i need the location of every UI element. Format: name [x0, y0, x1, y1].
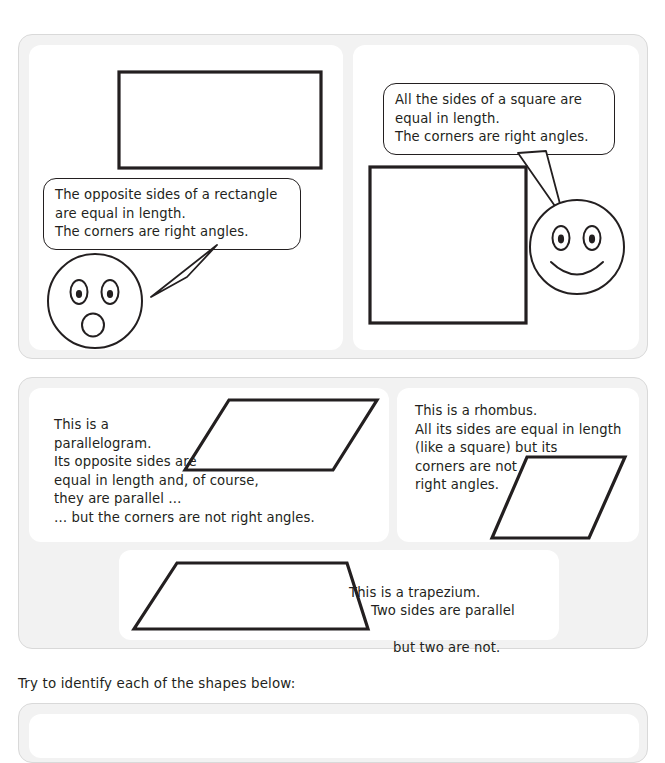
parallelogram-text: This is a parallelogram. Its opposite si… [54, 416, 374, 528]
trapezium-text-line-2: Two sides are parallel [349, 602, 559, 621]
trapezium-text-line-1: This is a trapezium. [349, 585, 480, 600]
panel-identify-exercise [18, 703, 648, 763]
smiling-face-icon [525, 195, 629, 299]
panel-oblique-shapes: This is a parallelogram. Its opposite si… [18, 377, 648, 649]
card-identify-exercise [29, 714, 639, 758]
surprised-face-icon [43, 249, 147, 353]
identify-shapes-instruction: Try to identify each of the shapes below… [18, 676, 295, 691]
rectangle-speech-bubble: The opposite sides of a rectangle are eq… [43, 178, 301, 250]
trapezium-text: This is a trapezium. Two sides are paral… [349, 565, 559, 677]
card-rectangle: The opposite sides of a rectangle are eq… [29, 45, 343, 350]
rectangle-bubble-tail [147, 243, 237, 305]
rectangle-bubble-text: The opposite sides of a rectangle are eq… [55, 186, 289, 242]
rhombus-shape [489, 454, 629, 542]
square-speech-bubble: All the sides of a square are equal in l… [383, 83, 615, 155]
panel-right-angle-shapes: The opposite sides of a rectangle are eq… [18, 34, 648, 359]
card-square: All the sides of a square are equal in l… [353, 45, 639, 350]
rectangle-shape [117, 70, 323, 170]
card-rhombus: This is a rhombus. All its sides are equ… [397, 388, 639, 542]
trapezium-shape [131, 560, 371, 632]
trapezium-text-line-3: but two are not. [349, 639, 559, 658]
square-bubble-text: All the sides of a square are equal in l… [395, 91, 603, 147]
card-trapezium: This is a trapezium. Two sides are paral… [119, 550, 559, 640]
square-shape [368, 165, 528, 325]
card-parallelogram: This is a parallelogram. Its opposite si… [29, 388, 389, 542]
